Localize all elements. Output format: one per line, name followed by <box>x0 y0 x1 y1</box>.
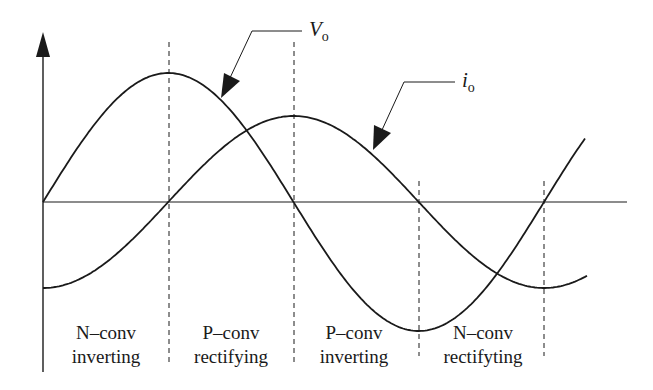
io-leader: io <box>373 68 475 150</box>
region-3-line2: inverting <box>320 346 389 367</box>
io-label-sub: o <box>468 80 475 95</box>
io-arrowhead-icon <box>373 125 391 150</box>
region-4-line1: N–conv <box>453 322 514 343</box>
region-2-line1: P–conv <box>203 322 261 343</box>
y-axis-arrow-icon <box>36 32 50 57</box>
region-labels: N–conv inverting P–conv rectifying P–con… <box>72 322 523 367</box>
vo-label: Vo <box>309 17 329 44</box>
region-1-line1: N–conv <box>76 322 137 343</box>
io-leader-line <box>382 82 455 130</box>
converter-mode-waveform-diagram: Vo io N–conv inverting P–conv rectifying… <box>0 0 653 390</box>
vo-leader-line <box>229 31 302 80</box>
vo-label-sub: o <box>322 29 329 44</box>
region-3-line1: P–conv <box>326 322 384 343</box>
axes <box>36 32 627 372</box>
region-2-line2: rectifying <box>194 346 268 367</box>
region-4-line2: rectifyting <box>443 346 523 367</box>
io-label: io <box>462 68 475 95</box>
vo-arrowhead-icon <box>221 73 240 98</box>
vo-leader: Vo <box>221 17 329 98</box>
region-1-line2: inverting <box>72 346 141 367</box>
